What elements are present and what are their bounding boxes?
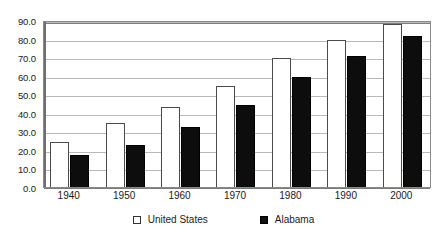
bar-group (377, 22, 432, 187)
legend-item-united-states: United States (133, 214, 208, 226)
chart-legend: United States Alabama (0, 212, 447, 228)
bar-chart: 0.010.020.030.040.050.060.070.080.090.0 … (0, 0, 447, 239)
bar-alabama (347, 56, 366, 187)
x-axis-tick-label: 1940 (58, 190, 80, 202)
y-axis-tick-label: 40.0 (18, 109, 36, 118)
x-axis-tick-label: 1990 (335, 190, 357, 202)
bar-united-states (383, 24, 402, 187)
gridline (44, 188, 430, 189)
bar-united-states (106, 123, 125, 187)
bar-united-states (272, 58, 291, 187)
y-axis-tick-label: 20.0 (18, 146, 36, 155)
bar-united-states (216, 86, 235, 187)
bar-group (155, 22, 210, 187)
filled-square-icon (260, 216, 268, 224)
y-axis-tick-label: 0.0 (23, 184, 36, 193)
bar-united-states (327, 40, 346, 187)
bar-alabama (126, 145, 145, 187)
bar-group (266, 22, 321, 187)
x-axis-tick-label: 1950 (113, 190, 135, 202)
x-axis-tick-label: 1960 (168, 190, 190, 202)
bar-group (44, 22, 99, 187)
x-axis: 1940195019601970198019902000 (43, 190, 431, 206)
y-axis: 0.010.020.030.040.050.060.070.080.090.0 (0, 21, 40, 188)
x-axis-tick-label: 2000 (390, 190, 412, 202)
y-axis-tick-label: 10.0 (18, 165, 36, 174)
bar-alabama (70, 155, 89, 187)
x-axis-tick-label: 1980 (279, 190, 301, 202)
bars-layer (44, 22, 430, 187)
bar-alabama (236, 105, 255, 187)
y-axis-tick-label: 70.0 (18, 54, 36, 63)
x-axis-tick-label: 1970 (224, 190, 246, 202)
y-axis-tick-label: 30.0 (18, 128, 36, 137)
bar-alabama (403, 36, 422, 187)
bar-group (99, 22, 154, 187)
bar-alabama (181, 127, 200, 187)
y-axis-tick-label: 90.0 (18, 17, 36, 26)
bar-united-states (50, 142, 69, 187)
legend-label: United States (148, 214, 208, 226)
bar-united-states (161, 107, 180, 187)
plot-area (43, 21, 431, 188)
y-axis-tick-label: 50.0 (18, 91, 36, 100)
legend-item-alabama: Alabama (260, 214, 314, 226)
y-axis-tick-label: 60.0 (18, 72, 36, 81)
y-axis-tick-label: 80.0 (18, 35, 36, 44)
legend-label: Alabama (275, 214, 314, 226)
bar-alabama (292, 77, 311, 187)
hollow-square-icon (133, 216, 141, 224)
bar-group (210, 22, 265, 187)
bar-group (321, 22, 376, 187)
